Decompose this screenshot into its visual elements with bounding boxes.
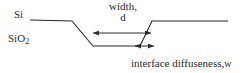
sio2-base-text: SiO <box>8 32 25 44</box>
width-annotation-label: width,d <box>97 1 149 23</box>
si-layer-label: Si <box>14 9 23 21</box>
diffuseness-symbol: w <box>224 58 231 69</box>
sio2-layer-label: SiO2 <box>8 33 29 45</box>
trench-profile-figure: Si SiO2 width,d interface diffuseness,w <box>0 0 251 73</box>
interface-diffuseness-label: interface diffuseness,w <box>131 58 232 70</box>
sio2-subscript: 2 <box>25 37 29 46</box>
diffuseness-text: interface diffuseness, <box>131 57 224 69</box>
width-label-line2: d <box>97 12 149 24</box>
